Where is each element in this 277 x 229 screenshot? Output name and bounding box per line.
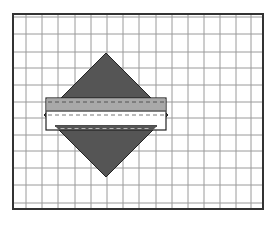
diagram-canvas xyxy=(0,0,277,229)
band-gray-section xyxy=(47,99,166,112)
